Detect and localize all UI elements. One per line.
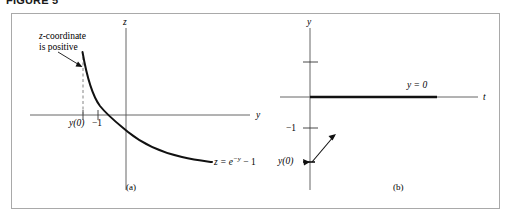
curve-equation-exponent: −y [233, 155, 241, 163]
curve-equation-label: z = e−y − 1 [214, 155, 256, 168]
direction-arrow-head [329, 134, 337, 141]
curve-equation-suffix: − 1 [241, 157, 256, 167]
panel-b: t y y = 0 −1 y(0) (b) [270, 14, 501, 208]
annotation-z-coordinate-positive: z-coordinate is positive [39, 31, 86, 54]
tick-label-y0-a: y(0) [69, 118, 84, 129]
panel-b-graphic: t y [270, 14, 501, 210]
curve-exponential [83, 52, 213, 162]
axis-label-t-b: t [483, 92, 486, 102]
axis-label-z-a: z [122, 17, 127, 27]
panel-caption-b: (b) [393, 182, 404, 192]
annotation-line2: is positive [39, 42, 78, 52]
curve-equation-prefix: z = e [214, 157, 233, 167]
initial-point-label-b: y(0) [278, 156, 293, 167]
figure-title: FIGURE 5 [6, 0, 58, 6]
panel-caption-a: (a) [126, 182, 136, 192]
direction-arrow-line [312, 136, 334, 162]
annotation-rest: -coordinate [43, 31, 86, 41]
axis-label-y-b: y [306, 17, 312, 27]
tick-label-minus1-b: −1 [286, 123, 296, 134]
panel-a: y z z-coordinate is positive y(0) −1 z =… [12, 14, 270, 208]
solution-label-y-equals-0: y = 0 [407, 80, 427, 91]
annotation-arrow-head [76, 62, 83, 68]
figure-frame: y z z-coordinate is positive y(0) −1 z =… [11, 13, 500, 209]
axis-label-y-a: y [255, 110, 261, 120]
tick-label-minus1-a: −1 [92, 118, 102, 129]
